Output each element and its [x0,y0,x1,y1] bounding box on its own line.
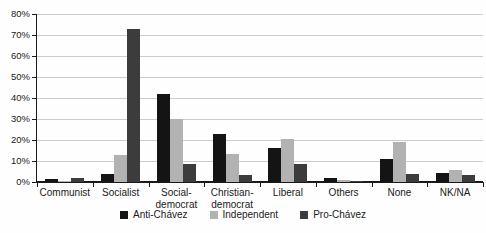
bar-pro-ch-vez-none [406,174,419,182]
x-axis-label-nk-na: NK/NA [422,187,486,199]
bar-anti-ch-vez-nk-na [436,173,449,182]
legend-item-pro-ch-vez: Pro-Chávez [300,209,366,220]
y-axis-label: 80% [0,8,30,20]
bar-independent-liberal [281,139,294,182]
bar-pro-ch-vez-liberal [294,164,307,182]
legend: Anti-ChávezIndependentPro-Chávez [0,209,486,220]
bar-independent-christian-democrat [226,154,239,182]
y-axis-tick [32,98,37,99]
y-axis-tick [32,35,37,36]
bar-anti-ch-vez-liberal [268,148,281,182]
y-axis-label: 50% [0,71,30,83]
bar-anti-ch-vez-social-democrat [157,94,170,182]
y-axis-tick [32,161,37,162]
gridline [37,77,483,78]
gridline [37,140,483,141]
y-axis-label: 0% [0,176,30,188]
y-axis-tick [32,140,37,141]
gridline [37,161,483,162]
legend-label-independent: Independent [223,209,279,220]
y-axis-tick [32,14,37,15]
y-axis-tick [32,77,37,78]
y-axis-label: 10% [0,155,30,167]
y-axis-label: 70% [0,29,30,41]
legend-label-anti-ch-vez: Anti-Chávez [133,209,187,220]
gridline [37,98,483,99]
gridline [37,56,483,57]
legend-label-pro-ch-vez: Pro-Chávez [313,209,366,220]
bar-independent-communist [58,181,71,182]
legend-item-anti-ch-vez: Anti-Chávez [120,209,187,220]
bar-independent-nk-na [449,170,462,182]
y-axis-tick [32,56,37,57]
bar-anti-ch-vez-none [380,159,393,182]
legend-swatch-anti-ch-vez [120,211,128,219]
x-axis-tick [483,182,484,187]
gridline [37,119,483,120]
legend-swatch-pro-ch-vez [300,211,308,219]
bar-anti-ch-vez-others [324,178,337,182]
legend-swatch-independent [210,211,218,219]
bar-anti-ch-vez-communist [45,179,58,182]
bar-pro-ch-vez-christian-democrat [239,175,252,182]
bar-anti-ch-vez-christian-democrat [213,134,226,182]
bar-pro-ch-vez-socialist [127,29,140,182]
y-axis-label: 20% [0,134,30,146]
bar-independent-social-democrat [170,119,183,182]
y-axis-label: 40% [0,92,30,104]
legend-item-independent: Independent [210,209,279,220]
bar-anti-ch-vez-socialist [101,174,114,182]
bar-independent-none [393,142,406,182]
bar-independent-others [337,180,350,182]
bar-pro-ch-vez-others [350,181,363,182]
y-axis-label: 60% [0,50,30,62]
y-axis-label: 30% [0,113,30,125]
y-axis-tick [32,119,37,120]
gridline [37,14,483,15]
bar-independent-socialist [114,155,127,182]
bar-pro-ch-vez-social-democrat [183,164,196,182]
bar-pro-ch-vez-communist [71,178,84,182]
gridline [37,35,483,36]
bar-pro-ch-vez-nk-na [462,175,475,182]
bar-chart: Anti-ChávezIndependentPro-Chávez 0%10%20… [0,0,486,233]
